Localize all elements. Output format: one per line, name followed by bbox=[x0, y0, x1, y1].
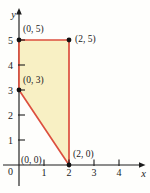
y-axis-arrowhead-icon bbox=[16, 8, 22, 15]
x-axis-label: x bbox=[140, 168, 146, 179]
vertex-dot bbox=[17, 88, 22, 93]
y-axis-label: y bbox=[10, 9, 16, 20]
x-axis-arrowhead-icon bbox=[139, 162, 146, 167]
point-label: (0, 3) bbox=[23, 75, 44, 86]
point-label: (0, 0) bbox=[21, 155, 42, 166]
x-tick-label: 3 bbox=[92, 167, 97, 178]
coordinate-plane: 1234 12345 y x 0 (0, 5)(2, 5)(0, 3)(0, 0… bbox=[0, 0, 150, 193]
figure-canvas: 1234 12345 y x 0 (0, 5)(2, 5)(0, 3)(0, 0… bbox=[0, 0, 150, 193]
vertex-dot bbox=[67, 163, 72, 168]
shaded-region bbox=[19, 40, 69, 165]
x-tick-label: 4 bbox=[117, 167, 122, 178]
point-label: (2, 0) bbox=[73, 149, 94, 160]
vertex-dot bbox=[67, 38, 72, 43]
y-tick-label: 2 bbox=[8, 110, 13, 121]
origin-label: 0 bbox=[8, 166, 13, 177]
point-label: (0, 5) bbox=[23, 24, 44, 35]
y-tick-label: 5 bbox=[8, 35, 13, 46]
x-ticks: 1234 bbox=[42, 160, 122, 179]
y-tick-label: 1 bbox=[8, 135, 13, 146]
point-label: (2, 5) bbox=[75, 34, 96, 45]
x-tick-label: 1 bbox=[42, 167, 47, 178]
y-tick-label: 4 bbox=[8, 60, 13, 71]
vertex-dot bbox=[17, 38, 22, 43]
x-tick-label: 2 bbox=[67, 167, 72, 178]
y-tick-label: 3 bbox=[8, 85, 13, 96]
